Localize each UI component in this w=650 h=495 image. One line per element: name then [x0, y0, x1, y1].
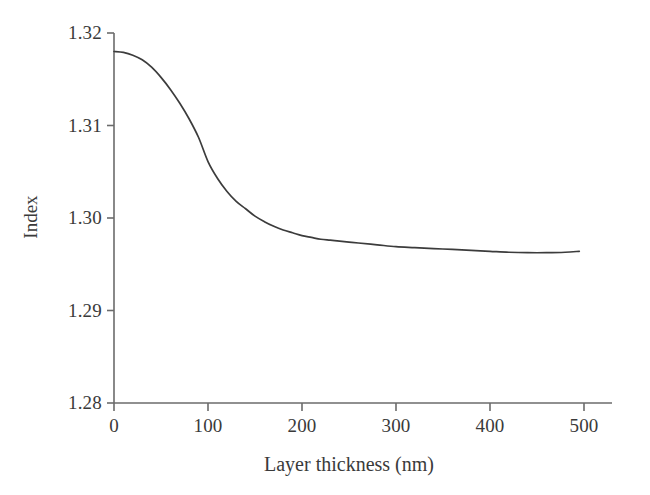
x-tick-label: 500 [569, 415, 598, 437]
y-axis-ticks [107, 33, 114, 403]
x-axis-title: Layer thickness (nm) [199, 453, 499, 476]
y-tick-label: 1.28 [40, 392, 102, 414]
y-tick-label: 1.32 [40, 22, 102, 44]
x-tick-label: 100 [193, 415, 222, 437]
y-tick-label: 1.31 [40, 115, 102, 137]
x-tick-label: 400 [475, 415, 504, 437]
x-axis-ticks [114, 403, 584, 411]
x-tick-label: 300 [381, 415, 410, 437]
chart-canvas [0, 0, 650, 495]
y-tick-label: 1.29 [40, 300, 102, 322]
y-tick-label: 1.30 [40, 207, 102, 229]
y-axis-title: Index [20, 172, 42, 262]
figure-container: 1.281.291.301.311.320100200300400500 Ind… [0, 0, 650, 495]
data-series-line [114, 52, 579, 253]
x-tick-label: 0 [109, 415, 119, 437]
x-tick-label: 200 [287, 415, 316, 437]
